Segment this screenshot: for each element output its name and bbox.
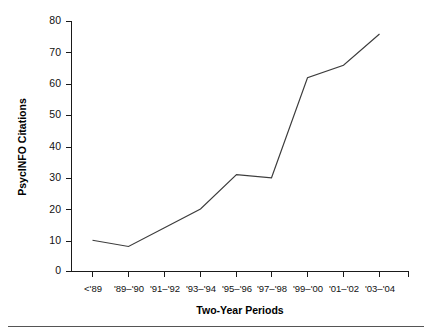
y-tick-label: 50 xyxy=(49,108,61,120)
data-line-series xyxy=(93,34,380,247)
x-tick-label: '01–'02 xyxy=(329,283,359,294)
y-tick-label: 70 xyxy=(49,46,61,58)
line-chart: 80 70 60 50 40 30 20 10 0 <'89 '89–'90 xyxy=(0,0,432,335)
x-axis-ticks xyxy=(93,272,409,278)
y-axis-ticks xyxy=(66,22,72,272)
y-tick-label: 30 xyxy=(49,171,61,183)
y-tick-label: 20 xyxy=(49,203,61,215)
x-tick-label: '97–'98 xyxy=(257,283,287,294)
x-tick-label: '99–'00 xyxy=(293,283,323,294)
y-tick-label: 80 xyxy=(49,14,61,26)
x-tick-label: '93–'94 xyxy=(186,283,216,294)
y-tick-label: 10 xyxy=(49,234,61,246)
x-tick-label: '89–'90 xyxy=(114,283,144,294)
footer-divider xyxy=(8,326,424,327)
y-tick-label: 40 xyxy=(49,140,61,152)
x-tick-label: '03–'04 xyxy=(365,283,395,294)
x-tick-label: '95–'96 xyxy=(222,283,252,294)
y-axis-title: PsycINFO Citations xyxy=(16,98,28,196)
y-tick-label: 0 xyxy=(55,264,61,276)
y-axis-tick-labels: 80 70 60 50 40 30 20 10 0 xyxy=(49,14,61,276)
x-tick-label: '91–'92 xyxy=(150,283,180,294)
y-tick-label: 60 xyxy=(49,77,61,89)
x-axis-tick-labels: <'89 '89–'90 '91–'92 '93–'94 '95–'96 '97… xyxy=(84,283,395,294)
x-tick-label: <'89 xyxy=(84,283,102,294)
chart-figure: 80 70 60 50 40 30 20 10 0 <'89 '89–'90 xyxy=(0,0,432,335)
x-axis-title: Two-Year Periods xyxy=(196,304,283,316)
